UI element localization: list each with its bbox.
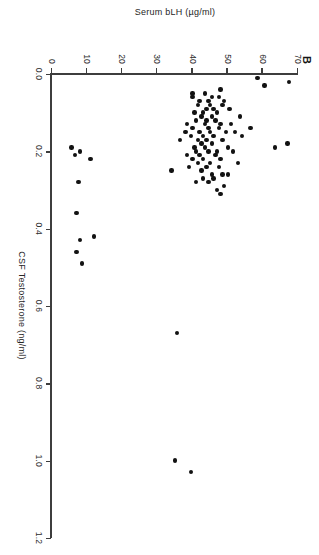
- scatter-point: [220, 138, 224, 142]
- scatter-point: [194, 118, 198, 122]
- scatter-point: [226, 172, 230, 176]
- scatter-point: [74, 250, 78, 254]
- scatter-points-layer: [0, 0, 319, 555]
- y-tick-label: 10: [82, 54, 92, 64]
- scatter-point: [201, 134, 205, 138]
- scatter-point: [196, 138, 200, 142]
- scatter-point: [173, 458, 177, 462]
- scatter-point: [208, 161, 212, 165]
- scatter-point: [199, 168, 203, 172]
- scatter-point: [226, 145, 230, 149]
- scatter-point: [222, 184, 226, 188]
- scatter-point: [73, 153, 77, 157]
- x-tick-mark: [46, 229, 51, 230]
- scatter-point: [211, 107, 215, 111]
- x-tick-label: 0.8: [34, 377, 44, 389]
- scatter-point: [211, 176, 215, 180]
- scatter-point: [192, 110, 196, 114]
- scatter-point: [204, 107, 208, 111]
- y-tick-label: 40: [188, 54, 198, 64]
- scatter-point: [206, 126, 210, 130]
- scatter-point: [78, 149, 82, 153]
- scatter-point: [238, 114, 242, 118]
- scatter-point: [196, 161, 200, 165]
- scatter-point: [201, 176, 205, 180]
- scatter-point: [80, 261, 84, 265]
- scatter-point: [190, 157, 194, 161]
- scatter-point: [217, 126, 221, 130]
- scatter-point: [248, 126, 252, 130]
- scatter-point: [229, 122, 233, 126]
- scatter-point: [218, 192, 222, 196]
- scatter-point: [210, 95, 214, 99]
- scatter-point: [204, 118, 208, 122]
- scatter-point: [220, 172, 224, 176]
- scatter-point: [183, 130, 187, 134]
- scatter-point: [240, 134, 244, 138]
- figure-root: B 0.00.20.40.60.81.01.2 010203040506070 …: [0, 0, 319, 555]
- scatter-point: [262, 83, 266, 87]
- scatter-point: [88, 157, 92, 161]
- x-tick-label: 0.4: [34, 222, 44, 234]
- y-tick-label: 0: [47, 59, 57, 64]
- y-tick-label: 50: [223, 54, 233, 64]
- scatter-point: [185, 122, 189, 126]
- scatter-point: [208, 103, 212, 107]
- scatter-point: [210, 141, 214, 145]
- scatter-point: [204, 165, 208, 169]
- scatter-point: [222, 99, 226, 103]
- y-tick-mark: [226, 68, 227, 73]
- scatter-point: [236, 161, 240, 165]
- scatter-point: [227, 107, 231, 111]
- scatter-point: [196, 103, 200, 107]
- scatter-point: [210, 114, 214, 118]
- x-tick-mark: [46, 383, 51, 384]
- scatter-point: [273, 145, 277, 149]
- scatter-point: [213, 153, 217, 157]
- scatter-point: [218, 122, 222, 126]
- scatter-point: [189, 470, 193, 474]
- x-tick-label: 0.0: [34, 68, 44, 80]
- scatter-point: [201, 110, 205, 114]
- y-tick-label: 60: [258, 54, 268, 64]
- scatter-point: [199, 114, 203, 118]
- scatter-point: [190, 126, 194, 130]
- scatter-point: [197, 153, 201, 157]
- scatter-point: [217, 165, 221, 169]
- scatter-point: [169, 168, 173, 172]
- x-tick-label: 1.0: [34, 454, 44, 466]
- scatter-point: [192, 145, 196, 149]
- scatter-point: [220, 103, 224, 107]
- scatter-point: [197, 99, 201, 103]
- y-tick-mark: [121, 68, 122, 73]
- y-tick-mark: [86, 68, 87, 73]
- scatter-point: [185, 153, 189, 157]
- scatter-point: [210, 172, 214, 176]
- scatter-point: [206, 99, 210, 103]
- scatter-point: [74, 211, 78, 215]
- scatter-point: [287, 80, 291, 84]
- scatter-point: [208, 130, 212, 134]
- scatter-point: [194, 180, 198, 184]
- x-tick-mark: [46, 538, 51, 539]
- y-tick-label: 20: [117, 54, 127, 64]
- y-tick-mark: [261, 68, 262, 73]
- y-tick-label: 70: [293, 54, 303, 64]
- scatter-point: [285, 141, 289, 145]
- scatter-point: [213, 118, 217, 122]
- scatter-point: [203, 145, 207, 149]
- scatter-point: [215, 149, 219, 153]
- x-tick-mark: [46, 306, 51, 307]
- scatter-point: [189, 134, 193, 138]
- scatter-point: [190, 95, 194, 99]
- scatter-point: [194, 149, 198, 153]
- x-tick-mark: [46, 151, 51, 152]
- scatter-point: [199, 141, 203, 145]
- x-tick-mark: [46, 74, 51, 75]
- scatter-point: [178, 138, 182, 142]
- scatter-point: [215, 110, 219, 114]
- y-axis-title: Serum bLH (µg/ml): [135, 7, 215, 17]
- scatter-point: [218, 157, 222, 161]
- y-tick-label: 30: [152, 54, 162, 64]
- scatter-point: [204, 138, 208, 142]
